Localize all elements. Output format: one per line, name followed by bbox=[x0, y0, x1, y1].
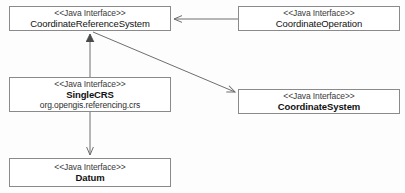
class-box-coordinate-operation[interactable]: <<Java Interface>> CoordinateOperation bbox=[238, 6, 400, 31]
class-package: org.opengis.referencing.crs bbox=[40, 100, 140, 110]
class-stereotype: <<Java Interface>> bbox=[283, 8, 354, 18]
class-stereotype: <<Java Interface>> bbox=[54, 79, 125, 89]
class-box-single-crs[interactable]: <<Java Interface>> SingleCRS org.opengis… bbox=[9, 77, 171, 112]
class-name: CoordinateSystem bbox=[278, 101, 360, 112]
class-box-coordinate-system[interactable]: <<Java Interface>> CoordinateSystem bbox=[238, 89, 400, 114]
class-name: Datum bbox=[75, 172, 104, 183]
class-name: SingleCRS bbox=[66, 89, 114, 100]
class-name: CoordinateOperation bbox=[276, 18, 362, 29]
uml-class-diagram: <<Java Interface>> CoordinateReferenceSy… bbox=[0, 0, 405, 193]
class-stereotype: <<Java Interface>> bbox=[283, 91, 354, 101]
class-box-coordinate-reference-system[interactable]: <<Java Interface>> CoordinateReferenceSy… bbox=[9, 6, 171, 31]
class-name: CoordinateReferenceSystem bbox=[30, 18, 149, 29]
class-stereotype: <<Java Interface>> bbox=[54, 8, 125, 18]
class-stereotype: <<Java Interface>> bbox=[54, 162, 125, 172]
class-box-datum[interactable]: <<Java Interface>> Datum bbox=[9, 158, 171, 187]
